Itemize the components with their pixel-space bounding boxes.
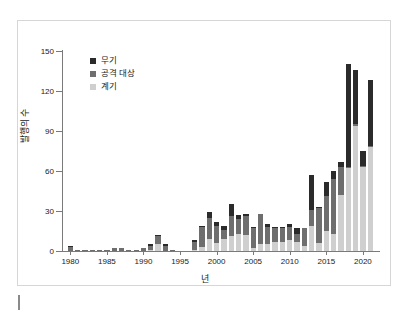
- bar-segment: [302, 246, 307, 251]
- bar-segment: [229, 216, 234, 236]
- bar-1997: [192, 240, 197, 251]
- bar-1990: [141, 248, 146, 251]
- bar-segment: [251, 248, 256, 251]
- bar-1993: [163, 244, 168, 251]
- bar-segment: [148, 250, 153, 251]
- bar-segment: [316, 243, 321, 251]
- bar-segment: [90, 250, 95, 251]
- bar-segment: [141, 248, 146, 251]
- x-tick: [363, 251, 364, 255]
- bar-segment: [192, 240, 197, 241]
- x-tick: [70, 251, 71, 255]
- x-tick: [253, 251, 254, 255]
- bar-segment: [346, 167, 351, 168]
- bar-segment: [294, 242, 299, 251]
- bar-1981: [75, 250, 80, 251]
- y-axis-title: 발행의 수: [18, 109, 31, 144]
- legend-label: 공격 대상: [101, 69, 135, 78]
- bar-2014: [316, 207, 321, 251]
- bar-segment: [68, 247, 73, 251]
- bar-segment: [214, 222, 219, 226]
- bar-segment: [214, 243, 219, 251]
- bar-2005: [251, 227, 256, 251]
- bar-segment: [199, 247, 204, 251]
- bar-segment: [324, 231, 329, 251]
- bar-segment: [97, 250, 102, 251]
- bar-segment: [324, 196, 329, 231]
- legend-swatch-icon: [90, 58, 96, 64]
- bar-2015: [324, 182, 329, 251]
- bar-2000: [214, 222, 219, 251]
- bar-segment: [265, 244, 270, 251]
- bar-segment: [294, 234, 299, 242]
- bar-2010: [287, 224, 292, 251]
- bar-segment: [148, 246, 153, 250]
- legend-swatch-icon: [90, 71, 96, 77]
- y-tick-label: 0: [50, 247, 54, 256]
- bar-segment: [324, 182, 329, 197]
- bar-1989: [134, 250, 139, 251]
- legend-swatch-icon: [90, 84, 96, 90]
- bar-segment: [353, 70, 358, 125]
- y-tick: [56, 211, 62, 212]
- y-tick-label: 120: [41, 87, 54, 96]
- bar-segment: [280, 227, 285, 228]
- bar-1994: [170, 250, 175, 251]
- bar-segment: [119, 248, 124, 251]
- bar-segment: [294, 228, 299, 233]
- bar-2009: [280, 227, 285, 251]
- bar-segment: [236, 215, 241, 219]
- bar-1985: [104, 250, 109, 251]
- bar-segment: [214, 226, 219, 243]
- bar-1998: [199, 226, 204, 251]
- bar-segment: [104, 250, 109, 251]
- bar-segment: [287, 227, 292, 240]
- bar-segment: [360, 167, 365, 251]
- bar-2017: [338, 162, 343, 251]
- y-tick-label: 150: [41, 47, 54, 56]
- bar-segment: [251, 227, 256, 228]
- bar-segment: [338, 167, 343, 195]
- bar-segment: [199, 226, 204, 227]
- y-tick: [56, 91, 62, 92]
- bar-2019: [353, 70, 358, 251]
- y-tick-label: 90: [45, 127, 54, 136]
- bar-1980: [68, 246, 73, 251]
- x-tick-label: 2010: [281, 257, 299, 266]
- x-tick: [180, 251, 181, 255]
- bar-segment: [272, 228, 277, 241]
- bar-segment: [368, 80, 373, 145]
- bar-2021: [368, 80, 373, 251]
- y-tick: [56, 131, 62, 132]
- bar-segment: [68, 246, 73, 247]
- bar-segment: [112, 248, 117, 251]
- bar-1984: [97, 250, 102, 251]
- x-tick: [143, 251, 144, 255]
- bar-segment: [309, 226, 314, 251]
- x-tick-label: 1980: [61, 257, 79, 266]
- bar-segment: [243, 214, 248, 217]
- bar-segment: [309, 210, 314, 226]
- bar-segment: [236, 219, 241, 234]
- bar-segment: [163, 244, 168, 245]
- bar-segment: [287, 224, 292, 227]
- legend-item-trigger: 계기: [90, 80, 135, 93]
- bar-segment: [368, 147, 373, 251]
- bar-segment: [338, 162, 343, 167]
- legend-label: 계기: [101, 82, 117, 91]
- bar-segment: [258, 244, 263, 251]
- y-tick: [56, 171, 62, 172]
- bar-2016: [331, 171, 336, 251]
- bar-segment: [221, 226, 226, 230]
- x-tick: [217, 251, 218, 255]
- bar-1987: [119, 248, 124, 251]
- bar-segment: [353, 124, 358, 125]
- bar-2013: [309, 175, 314, 251]
- bar-2012: [302, 228, 307, 251]
- bar-2001: [221, 226, 226, 251]
- bar-segment: [155, 236, 160, 244]
- bar-segment: [287, 240, 292, 251]
- bar-segment: [221, 230, 226, 239]
- bar-segment: [309, 175, 314, 210]
- bar-1992: [155, 235, 160, 251]
